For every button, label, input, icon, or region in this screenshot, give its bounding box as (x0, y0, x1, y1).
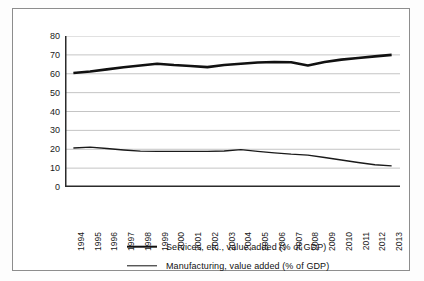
legend-item-manufacturing: Manufacturing, value added (% of GDP) (65, 256, 405, 275)
series-line-manufacturing (73, 147, 391, 166)
legend-line-icon-services (127, 242, 157, 252)
y-axis-label-0: 0 (55, 183, 60, 192)
series-line-services (73, 55, 391, 73)
x-axis-labels: 1994199519961997199819992000200120022003… (65, 190, 400, 236)
legend-item-services: Services, etc., value added (% of GDP) (65, 237, 405, 256)
figure-frame: 01020304050607080 1994199519961997199819… (12, 8, 410, 271)
plot-canvas (65, 36, 400, 187)
legend-line-icon-manufacturing (127, 261, 157, 271)
y-axis-label-70: 70 (50, 50, 60, 59)
y-axis-label-50: 50 (50, 88, 60, 97)
chart-screenshot: 01020304050607080 1994199519961997199819… (0, 0, 424, 281)
y-axis-label-80: 80 (50, 32, 60, 41)
y-axis-label-60: 60 (50, 69, 60, 78)
y-axis-label-40: 40 (50, 107, 60, 116)
y-axis-label-20: 20 (50, 145, 60, 154)
chart-legend: Services, etc., value added (% of GDP) M… (65, 237, 405, 275)
y-axis-label-30: 30 (50, 126, 60, 135)
legend-label-manufacturing: Manufacturing, value added (% of GDP) (166, 261, 329, 271)
plot-area: 01020304050607080 (65, 36, 400, 187)
y-axis-label-10: 10 (50, 164, 60, 173)
legend-label-services: Services, etc., value added (% of GDP) (166, 242, 326, 252)
